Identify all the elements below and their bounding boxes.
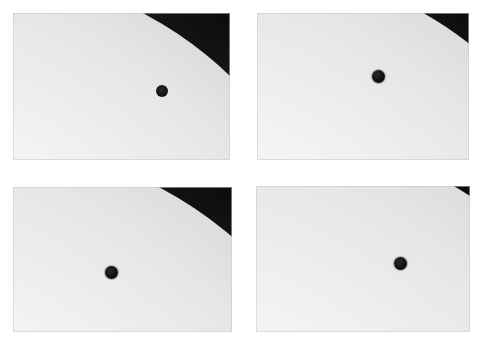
figure-description: Four photographic frames of the solar li… (0, 0, 1, 1)
venus-silhouette-4 (394, 257, 407, 270)
venus-silhouette-3 (105, 266, 118, 279)
panel-1-content: Venus at ingress — notch on the solar li… (13, 13, 230, 160)
image-panel-1: Venus at ingress — notch on the solar li… (13, 13, 230, 160)
solar-disc-2 (257, 13, 469, 160)
figure-title: Transit of Venus sequence (0, 0, 1, 1)
panel-4-content: Venus well within the solar disc (256, 186, 470, 332)
image-panel-2: Venus fully onto the disc, near the limb (257, 13, 469, 160)
transit-figure: Transit of Venus sequence Venus at ingre… (0, 0, 482, 344)
image-panel-4: Venus well within the solar disc (256, 186, 470, 332)
venus-silhouette-2 (372, 70, 385, 83)
panel-2-content: Venus fully onto the disc, near the limb (257, 13, 469, 160)
solar-disc-4 (256, 186, 470, 332)
image-panel-3: Venus advanced further inside the solar … (13, 187, 232, 332)
venus-silhouette-1 (156, 85, 168, 97)
panel-3-content: Venus advanced further inside the solar … (13, 187, 232, 332)
